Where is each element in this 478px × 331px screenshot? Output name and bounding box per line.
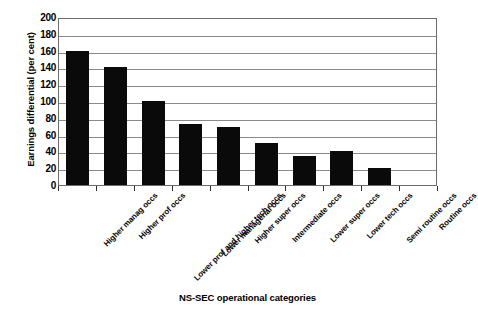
y-axis-tick-label: 180	[34, 30, 56, 40]
bar[interactable]	[217, 127, 240, 185]
bar[interactable]	[330, 151, 353, 185]
bar[interactable]	[255, 143, 278, 185]
bar-slot	[97, 19, 135, 185]
bar-slot	[172, 19, 210, 185]
y-axis-tick-label: 20	[34, 164, 56, 174]
bar[interactable]	[179, 124, 202, 185]
y-axis-tick-label: 60	[34, 131, 56, 141]
y-axis-tick-label: 140	[34, 63, 56, 73]
y-axis-tick-label: 160	[34, 47, 56, 57]
bar-slot	[285, 19, 323, 185]
bar-slot	[59, 19, 97, 185]
y-axis-tick-label: 0	[34, 181, 56, 191]
bar-slot	[323, 19, 361, 185]
y-axis-tick-label: 80	[34, 114, 56, 124]
bar[interactable]	[104, 67, 127, 185]
bar-slot	[210, 19, 248, 185]
bar-slot	[248, 19, 286, 185]
x-axis-tick	[437, 186, 438, 191]
plot-area	[58, 18, 437, 186]
bar-slot	[134, 19, 172, 185]
y-axis-tick-label: 120	[34, 80, 56, 90]
y-axis-tick-label: 40	[34, 147, 56, 157]
bars-series	[59, 19, 436, 185]
x-axis-category-labels: Higher manag occsHigher prof occsLower p…	[58, 191, 437, 281]
y-axis-tick-labels: 020406080100120140160180200	[34, 18, 56, 186]
x-axis-title: NS-SEC operational categories	[58, 292, 437, 303]
bar[interactable]	[368, 168, 391, 185]
y-axis-tick-label: 100	[34, 97, 56, 107]
bar[interactable]	[142, 101, 165, 185]
bar[interactable]	[66, 51, 89, 185]
bar-slot	[361, 19, 399, 185]
bar[interactable]	[293, 156, 316, 185]
y-axis-tick-label: 200	[34, 13, 56, 23]
bar-slot	[398, 19, 436, 185]
